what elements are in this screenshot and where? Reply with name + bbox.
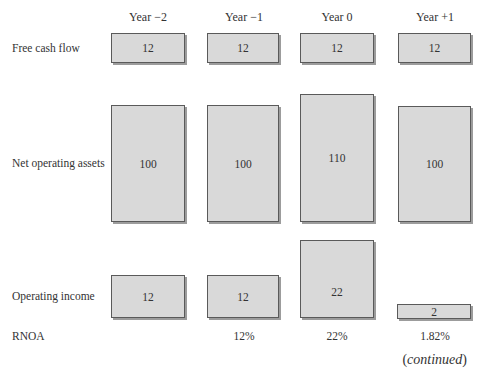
clipped-caption-line	[10, 0, 260, 3]
noa-box-year-0: 110	[300, 94, 374, 222]
rnoa-value-year-minus-1: 12%	[207, 330, 281, 342]
fcf-box-year-minus-1: 12	[207, 33, 279, 63]
oi-box-year-plus-1: 2	[397, 304, 471, 319]
rnoa-value-year-plus-1: 1.82%	[398, 330, 472, 342]
continued-close-paren: )	[462, 352, 467, 367]
row-label-rnoa: RNOA	[12, 330, 45, 342]
column-header-year-minus-1: Year −1	[207, 10, 281, 25]
noa-box-year-minus-2: 100	[111, 105, 185, 222]
continued-text: continued	[407, 352, 462, 367]
column-header-year-0: Year 0	[300, 10, 374, 25]
oi-box-year-minus-1: 12	[207, 275, 279, 318]
oi-box-year-0: 22	[300, 240, 374, 318]
fcf-box-year-plus-1: 12	[398, 33, 471, 63]
column-header-year-plus-1: Year +1	[398, 10, 472, 25]
rnoa-value-year-0: 22%	[300, 330, 374, 342]
row-label-net-operating-assets: Net operating assets	[12, 157, 105, 169]
row-label-operating-income: Operating income	[12, 290, 95, 302]
fcf-box-year-0: 12	[300, 33, 374, 63]
noa-box-year-plus-1: 100	[398, 106, 471, 222]
row-label-free-cash-flow: Free cash flow	[12, 42, 80, 54]
continued-note: (continued)	[402, 352, 467, 368]
oi-box-year-minus-2: 12	[111, 275, 185, 318]
fcf-box-year-minus-2: 12	[111, 33, 185, 63]
noa-box-year-minus-1: 100	[207, 105, 279, 222]
column-header-year-minus-2: Year −2	[111, 10, 185, 25]
